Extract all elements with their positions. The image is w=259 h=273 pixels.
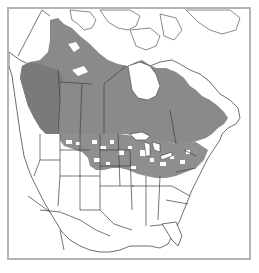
- arctic-island: [100, 10, 140, 30]
- baffin-island: [160, 14, 182, 40]
- greenland: [186, 10, 240, 34]
- arctic-island: [130, 28, 160, 50]
- arctic-island: [70, 10, 96, 30]
- range-map: [0, 0, 259, 273]
- alaska-yukon-border: [18, 10, 42, 56]
